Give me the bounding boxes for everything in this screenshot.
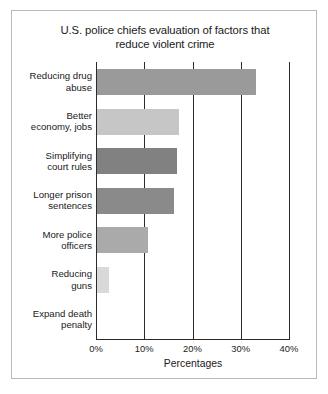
bar-simplifying-court-rules — [97, 148, 177, 174]
category-label-line: officers — [61, 240, 92, 251]
category-label-line: Longer prison — [33, 189, 92, 200]
bar-row — [96, 62, 289, 102]
category-label-line: penalty — [61, 319, 92, 330]
category-label-line: Better — [66, 110, 92, 121]
category-label-reducing-guns: Reducing guns — [18, 260, 94, 300]
bar-row — [96, 299, 289, 339]
chart-title: U.S. police chiefs evaluation of factors… — [30, 23, 300, 51]
bar-longer-prison-sentences — [97, 188, 174, 214]
category-label-simplifying-court-rules: Simplifying court rules — [18, 141, 94, 181]
bar-row — [96, 141, 289, 181]
category-label-line: abuse — [66, 82, 92, 93]
category-label-expand-death-penalty: Expand death penalty — [18, 299, 94, 339]
bar-row — [96, 181, 289, 221]
x-axis-line — [96, 339, 290, 340]
category-label-line: Reducing — [51, 268, 92, 279]
bar-row — [96, 220, 289, 260]
x-tick-label: 20% — [183, 343, 202, 354]
chart-title-line-2: reduce violent crime — [30, 37, 300, 51]
category-label-line: sentences — [48, 200, 92, 211]
bar-more-police-officers — [97, 227, 148, 253]
category-label-line: economy, jobs — [31, 121, 92, 132]
category-label-longer-prison-sentences: Longer prison sentences — [18, 181, 94, 221]
category-label-more-police-officers: More police officers — [18, 220, 94, 260]
x-tick-label: 30% — [231, 343, 250, 354]
x-axis-title: Percentages — [96, 358, 290, 369]
x-axis-ticks: 0%10%20%30%40% — [12, 343, 318, 357]
category-label-reducing-drug-abuse: Reducing drug abuse — [18, 62, 94, 102]
category-label-line: More police — [42, 229, 92, 240]
x-tick-label: 0% — [89, 343, 103, 354]
bars-container — [96, 62, 289, 339]
bar-row — [96, 260, 289, 300]
x-tick-label: 10% — [135, 343, 154, 354]
category-label-line: court rules — [47, 161, 92, 172]
bar-reducing-drug-abuse — [97, 69, 256, 95]
bar-reducing-guns — [97, 267, 109, 293]
x-tick-label: 40% — [280, 343, 299, 354]
gridline-40% — [289, 62, 290, 339]
chart-title-line-1: U.S. police chiefs evaluation of factors… — [30, 23, 300, 37]
category-label-better-economy-jobs: Better economy, jobs — [18, 102, 94, 142]
bar-better-economy-jobs — [97, 109, 179, 135]
chart-frame: U.S. police chiefs evaluation of factors… — [11, 10, 317, 379]
category-label-line: guns — [71, 280, 92, 291]
category-label-line: Simplifying — [46, 150, 92, 161]
category-axis-labels: Reducing drug abuse Better economy, jobs… — [18, 62, 94, 339]
bar-row — [96, 102, 289, 142]
category-label-line: Reducing drug — [30, 70, 92, 81]
category-label-line: Expand death — [33, 308, 92, 319]
